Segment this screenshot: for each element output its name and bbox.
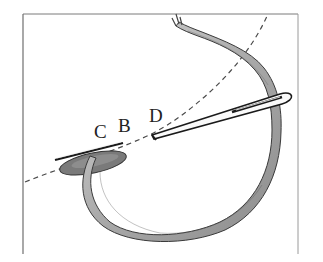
needle — [152, 93, 292, 140]
label-b: B — [118, 115, 131, 136]
label-c: C — [94, 121, 107, 142]
embroidery-diagram: C B D — [0, 0, 323, 262]
label-d: D — [149, 105, 163, 126]
